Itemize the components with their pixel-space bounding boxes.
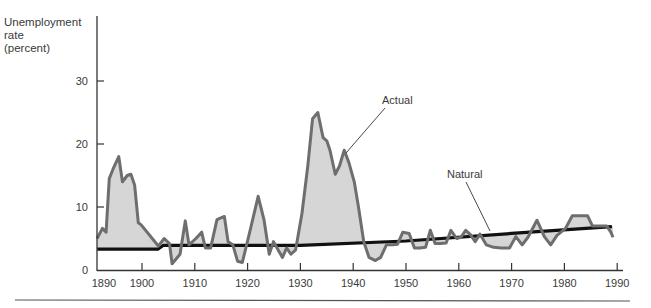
x-ticks: 1890190019101920193019401950196019701980… xyxy=(92,263,630,289)
y-tick-label: 30 xyxy=(76,75,88,87)
x-tick-label: 1960 xyxy=(447,277,471,289)
label-actual: Actual xyxy=(382,94,413,106)
x-tick-label: 1970 xyxy=(499,277,523,289)
leader-natural xyxy=(466,182,490,231)
y-tick-label: 0 xyxy=(82,264,88,276)
leader-actual xyxy=(346,108,385,153)
x-tick-label: 1950 xyxy=(394,277,418,289)
y-tick-label: 10 xyxy=(76,201,88,213)
annotation-natural: Natural xyxy=(447,168,490,231)
x-tick-label: 1920 xyxy=(235,277,259,289)
label-natural: Natural xyxy=(447,168,482,180)
unemployment-chart: 0102030 18901900191019201930194019501960… xyxy=(0,0,651,308)
y-tick-label: 20 xyxy=(76,138,88,150)
bottom-rule xyxy=(15,300,630,301)
x-tick-label: 1930 xyxy=(288,277,312,289)
x-tick-label: 1990 xyxy=(605,277,629,289)
x-tick-label: 1980 xyxy=(552,277,576,289)
x-tick-label: 1900 xyxy=(130,277,154,289)
annotation-actual: Actual xyxy=(346,94,413,153)
x-tick-label: 1940 xyxy=(341,277,365,289)
x-tick-label: 1890 xyxy=(92,277,116,289)
x-tick-label: 1910 xyxy=(183,277,207,289)
